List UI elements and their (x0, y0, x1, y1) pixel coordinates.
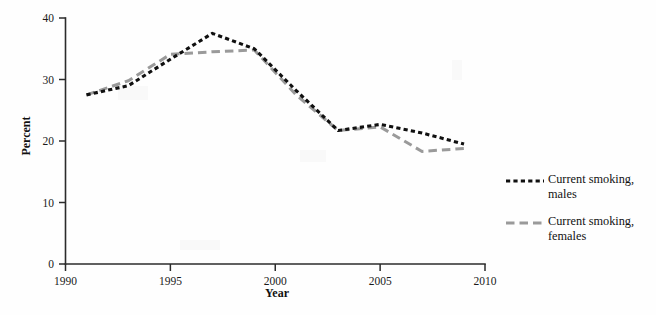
chart-legend: Current smoking, males Current smoking, … (505, 172, 656, 256)
legend-item-females: Current smoking, females (505, 214, 656, 244)
y-tick-label: 0 (48, 258, 54, 270)
legend-label-males: Current smoking, males (548, 172, 656, 201)
y-tick-label: 10 (43, 197, 55, 209)
legend-label-females: Current smoking, females (548, 214, 656, 243)
y-tick-label: 40 (43, 12, 55, 24)
x-tick-label: 2010 (474, 275, 497, 287)
x-axis-title: Year (265, 286, 290, 300)
y-tick-label: 20 (43, 135, 55, 147)
dashed-line-swatch (505, 218, 545, 228)
x-tick-label: 1995 (159, 275, 182, 287)
plot-area: 010203040 19901995200020052010 Year Perc… (0, 0, 656, 315)
series-line-females (86, 50, 464, 151)
series-line-males (86, 33, 464, 144)
y-axis-title: Percent (19, 116, 33, 155)
legend-item-males: Current smoking, males (505, 172, 656, 202)
y-tick-label: 30 (43, 74, 55, 86)
x-tick-label: 2005 (369, 275, 392, 287)
dotted-line-swatch (505, 176, 545, 186)
data-series-group (86, 33, 464, 151)
chart-figure: 010203040 19901995200020052010 Year Perc… (0, 0, 656, 315)
y-axis: 010203040 (43, 12, 66, 270)
x-tick-label: 1990 (54, 275, 77, 287)
x-axis: 19901995200020052010 (54, 264, 497, 287)
